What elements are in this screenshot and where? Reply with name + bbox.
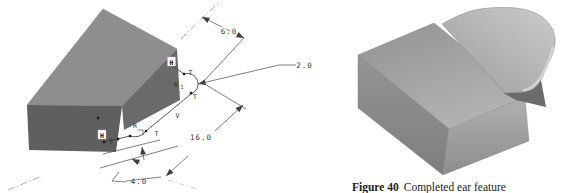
dim-radius-value: 2.0 bbox=[296, 61, 313, 70]
dim-width-value: 6.0 bbox=[221, 27, 238, 36]
sketch-dot bbox=[190, 92, 192, 94]
tangent-label-lower-2: T bbox=[155, 130, 159, 138]
figure-caption: Figure 40 Completed ear feature bbox=[352, 181, 506, 193]
dim-width: 6.0 bbox=[202, 17, 244, 82]
dim-length-value: 16.0 bbox=[190, 133, 212, 142]
h-constraint-lower: H bbox=[100, 132, 104, 140]
h-constraint-upper: H bbox=[170, 59, 174, 67]
tangent-label-upper-2: T bbox=[193, 93, 197, 101]
sketch-dot bbox=[97, 117, 99, 119]
radius1-subscript: 1 bbox=[181, 84, 184, 90]
left-view: H T R 1 T V H T R T 6.0 2.0 16.0 bbox=[8, 2, 313, 190]
tangent-label-upper-1: T bbox=[189, 69, 193, 77]
offset-arrow-up bbox=[142, 147, 144, 160]
dim-length-line-upper bbox=[215, 105, 243, 131]
sketch-dot bbox=[103, 141, 105, 143]
left-block-front-face bbox=[27, 105, 122, 152]
vertical-constraint-label: V bbox=[176, 112, 180, 120]
centerline-upper bbox=[181, 2, 219, 39]
centerline-stub bbox=[168, 180, 197, 189]
figure-caption-label: Figure 40 bbox=[352, 181, 399, 193]
dim-width-extension bbox=[203, 38, 244, 82]
dim-length-extension-upper bbox=[203, 83, 246, 109]
figure-caption-text: Completed ear feature bbox=[404, 181, 506, 193]
cad-figure-svg: H T R 1 T V H T R T 6.0 2.0 16.0 bbox=[0, 0, 563, 193]
dim-offset-bracket bbox=[112, 172, 126, 182]
sketch-dot bbox=[183, 73, 185, 75]
sketch-dot bbox=[145, 130, 147, 132]
dim-offset-value: 4.0 bbox=[131, 177, 148, 186]
tangent-label-lower-1: T bbox=[109, 138, 113, 146]
radius1-label: R bbox=[174, 81, 178, 89]
dim-radius: 2.0 bbox=[198, 61, 313, 84]
dim-length-line-lower bbox=[166, 156, 188, 176]
centerline-lower bbox=[8, 176, 42, 190]
offset-arrow-diag bbox=[132, 159, 140, 163]
right-view bbox=[358, 7, 555, 175]
figure-canvas: H T R 1 T V H T R T 6.0 2.0 16.0 bbox=[0, 0, 563, 193]
sketch-dot bbox=[129, 135, 131, 137]
sketch-dot bbox=[117, 138, 119, 140]
radius-label-lower: R bbox=[133, 122, 137, 130]
dim-radius-leader bbox=[198, 65, 296, 84]
